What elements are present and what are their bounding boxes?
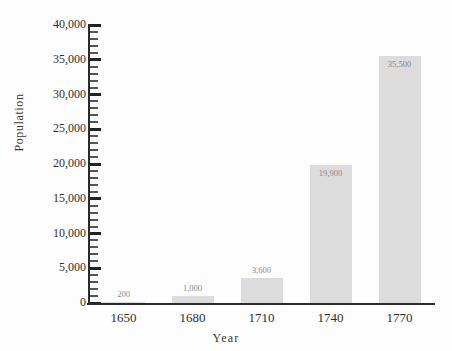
x-axis-line [87, 303, 435, 305]
bar: 200 [103, 302, 145, 303]
x-axis-tick-label: 1770 [355, 310, 445, 326]
y-axis-tick-label: 5,000 [2, 260, 86, 275]
bar-chart: Population 05,00010,00015,00020,00025,00… [0, 0, 452, 351]
y-axis-tick-labels: 05,00010,00015,00020,00025,00030,00035,0… [0, 0, 86, 351]
bar-value-label: 200 [103, 289, 145, 299]
y-axis-tick-label: 25,000 [2, 121, 86, 136]
y-axis-tick-label: 20,000 [2, 156, 86, 171]
y-axis-tick-label: 10,000 [2, 226, 86, 241]
y-axis-tick-label: 15,000 [2, 191, 86, 206]
bar: 35,500 [379, 56, 421, 303]
bar: 1,000 [172, 296, 214, 303]
y-axis-tick-label: 30,000 [2, 87, 86, 102]
bar: 3,600 [241, 278, 283, 303]
y-axis-tick-label: 40,000 [2, 17, 86, 32]
y-axis-tick-label: 35,000 [2, 52, 86, 67]
y-axis-tick-label: 0 [2, 295, 86, 310]
plot-area: 2001,0003,60019,90035,500 [89, 25, 434, 303]
x-axis-title: Year [0, 331, 452, 346]
bar-value-label: 3,600 [241, 265, 283, 275]
bar-value-label: 35,500 [379, 59, 421, 69]
bar-value-label: 19,900 [310, 168, 352, 178]
bar: 19,900 [310, 165, 352, 303]
bar-value-label: 1,000 [172, 283, 214, 293]
